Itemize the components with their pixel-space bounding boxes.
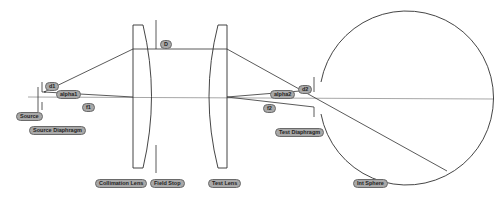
optical-axis [28, 97, 494, 99]
label-f1: f1 [82, 103, 95, 112]
label-source-diaphragm: Source Diaphragm [29, 126, 86, 135]
label-collimation-lens: Collimation Lens [95, 179, 147, 188]
label-D: D [160, 40, 172, 49]
label-int-sphere: Int Sphere [353, 179, 388, 188]
label-d2: d2 [298, 85, 312, 94]
collimation-lens [133, 25, 152, 168]
label-f2: f2 [263, 104, 276, 113]
label-test-lens: Test Lens [208, 179, 241, 188]
label-field-stop: Field Stop [150, 179, 185, 188]
optical-diagram [0, 0, 504, 199]
label-test-diaphragm: Test Diaphragm [275, 128, 324, 137]
test-lens [209, 25, 227, 168]
label-source: Source [16, 112, 43, 121]
ray-upper-2 [227, 49, 447, 171]
label-alpha2: alpha2 [270, 90, 295, 99]
label-alpha1: alpha1 [56, 90, 81, 99]
